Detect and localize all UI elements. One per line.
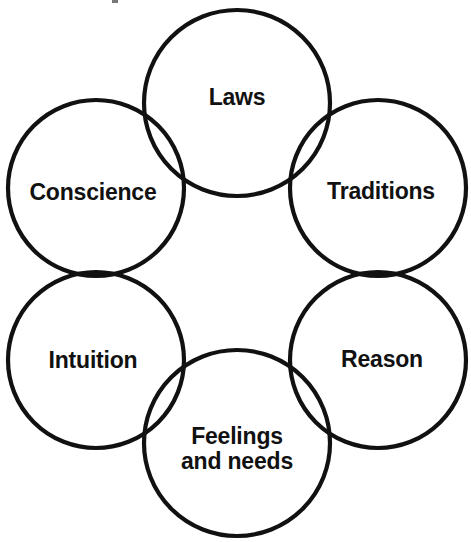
label-laws: Laws bbox=[209, 85, 266, 110]
scan-artifact-speck bbox=[112, 0, 118, 3]
label-feelings-and-needs: Feelings and needs bbox=[181, 424, 293, 474]
label-conscience: Conscience bbox=[29, 180, 156, 205]
label-reason: Reason bbox=[341, 347, 423, 372]
label-traditions: Traditions bbox=[327, 179, 435, 204]
venn-diagram: Laws Conscience Traditions Intuition Rea… bbox=[0, 0, 471, 542]
label-intuition: Intuition bbox=[49, 348, 138, 373]
